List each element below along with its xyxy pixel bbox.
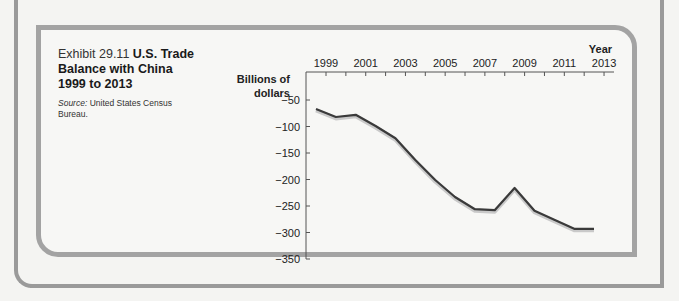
x-tick-label: 2007: [473, 57, 497, 69]
data-series: [316, 109, 594, 230]
x-tick-label: 2003: [393, 57, 417, 69]
x-tick-label: 2009: [512, 57, 536, 69]
x-tick-label: 2001: [353, 57, 377, 69]
y-axis: −50−100−150−200−250−300−350: [275, 72, 310, 265]
y-tick-label: −300: [275, 227, 300, 239]
x-tick-label: 1999: [314, 57, 338, 69]
y-tick-label: −350: [275, 253, 300, 265]
x-axis-title: Year: [589, 43, 613, 55]
trade-balance-line: [316, 109, 594, 229]
x-tick-label: 2011: [552, 57, 576, 69]
line-chart: 19992001200320052007200920112013Year −50…: [0, 0, 679, 301]
y-tick-label: −250: [275, 200, 300, 212]
y-tick-label: −100: [275, 121, 300, 133]
x-tick-label: 2005: [433, 57, 457, 69]
y-tick-label: −50: [281, 94, 300, 106]
series-shadow: [316, 111, 594, 231]
y-tick-label: −150: [275, 147, 300, 159]
x-axis: 19992001200320052007200920112013Year: [306, 43, 616, 76]
x-tick-label: 2013: [592, 57, 616, 69]
y-tick-label: −200: [275, 174, 300, 186]
